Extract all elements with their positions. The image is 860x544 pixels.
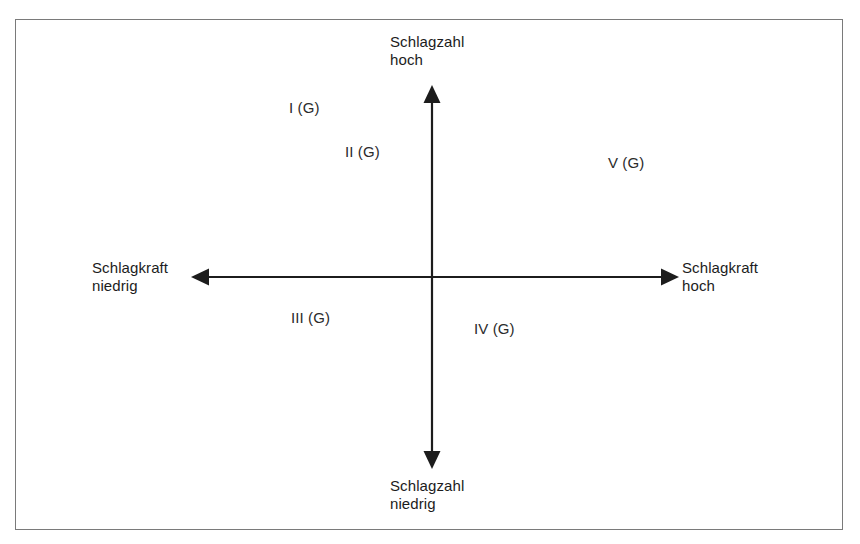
axis-label-right: Schlagkraft hoch [682, 259, 758, 295]
axis-label-bottom: Schlagzahl niedrig [390, 477, 464, 513]
quadrant-label-1: I (G) [289, 99, 320, 117]
arrow-head-left-icon [191, 269, 209, 286]
quadrant-label-4: IV (G) [474, 320, 515, 338]
diagram-canvas: Schlagzahl hoch Schlagzahl niedrig Schla… [0, 0, 860, 544]
quadrant-label-2: II (G) [345, 143, 380, 161]
arrow-head-right-icon [661, 269, 679, 286]
quadrant-label-3: III (G) [291, 309, 330, 327]
axis-label-top: Schlagzahl hoch [390, 33, 464, 69]
axis-label-left: Schlagkraft niedrig [92, 259, 168, 295]
quadrant-label-5: V (G) [608, 154, 644, 172]
arrow-head-down-icon [424, 451, 441, 469]
arrow-head-up-icon [424, 85, 441, 103]
